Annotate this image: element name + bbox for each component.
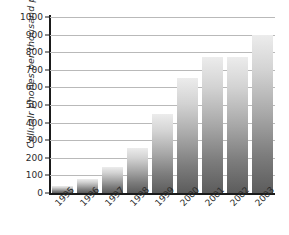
bar bbox=[227, 57, 248, 193]
x-axis: 199519961997199819992000200120022003 bbox=[50, 193, 275, 235]
bar-chart: Cellualr phones per thousand people 0100… bbox=[0, 0, 289, 235]
y-tick-label: 400 bbox=[26, 118, 43, 128]
y-tick-label: 1000 bbox=[20, 12, 43, 22]
y-tick-label: 700 bbox=[26, 65, 43, 75]
bar bbox=[177, 78, 198, 193]
bar-series bbox=[50, 17, 275, 193]
y-tick-label: 300 bbox=[26, 135, 43, 145]
bar bbox=[152, 114, 173, 193]
plot-area bbox=[50, 17, 275, 193]
y-axis: 01002003004005006007008009001000 bbox=[0, 17, 50, 193]
y-tick-label: 200 bbox=[26, 153, 43, 163]
y-tick-label: 100 bbox=[26, 170, 43, 180]
bar bbox=[252, 35, 273, 193]
bar bbox=[202, 57, 223, 193]
y-tick-label: 600 bbox=[26, 82, 43, 92]
y-tick-label: 800 bbox=[26, 47, 43, 57]
y-tick-label: 500 bbox=[26, 100, 43, 110]
y-tick-label: 0 bbox=[37, 188, 43, 198]
y-tick-label: 900 bbox=[26, 30, 43, 40]
